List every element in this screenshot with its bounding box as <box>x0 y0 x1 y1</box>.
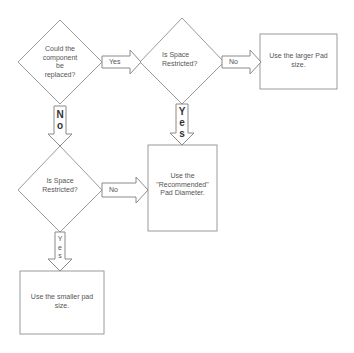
arrow-letter: s <box>55 252 65 261</box>
outcome-label-larger-pad: Use the larger Pad size. <box>262 52 335 69</box>
decision-label-line: component <box>30 54 90 63</box>
outcome-label-smaller-pad: Use the smaller pad size. <box>22 293 102 310</box>
decision-label-line: be <box>30 62 90 71</box>
arrow-label-no-middle: No <box>109 186 118 193</box>
decision-label-line: Is Space <box>162 51 210 60</box>
decision-label-line: Restricted? <box>30 186 90 195</box>
outcome-label-line: Use the <box>150 172 215 181</box>
arrow-no-to-larger-pad <box>222 50 261 74</box>
arrow-label-no-top-right: No <box>229 58 238 65</box>
arrow-letter: o <box>54 120 66 131</box>
outcome-label-line: Use the larger Pad <box>262 52 335 61</box>
arrow-label-yes-vertical-top: Y e s <box>176 106 188 139</box>
arrow-letter: Y <box>55 235 65 244</box>
outcome-label-line: Pad Diameter. <box>150 189 215 198</box>
arrow-letter: e <box>176 117 188 128</box>
arrow-letter: e <box>55 244 65 253</box>
decision-label-line: Restricted? <box>162 60 210 69</box>
decision-label-line: replaced? <box>30 71 90 80</box>
arrow-label-no-vertical: N o <box>54 109 66 131</box>
outcome-label-line: size. <box>262 61 335 70</box>
decision-label-space-restricted-bottom: Is Space Restricted? <box>30 177 90 194</box>
decision-label-component-replaced: Could the component be replaced? <box>30 45 90 79</box>
arrow-letter: s <box>176 128 188 139</box>
arrow-yes-to-space-check <box>102 50 141 74</box>
outcome-label-line: Use the smaller pad <box>22 293 102 302</box>
decision-label-space-restricted-top: Is Space Restricted? <box>162 51 210 68</box>
outcome-label-line: "Recommended" <box>150 181 215 190</box>
arrow-label-yes-top: Yes <box>109 58 120 65</box>
outcome-label-line: size. <box>22 302 102 311</box>
arrow-letter: Y <box>176 106 188 117</box>
decision-label-line: Is Space <box>30 177 90 186</box>
decision-label-line: Could the <box>30 45 90 54</box>
outcome-label-recommended-pad: Use the "Recommended" Pad Diameter. <box>150 172 215 198</box>
arrow-letter: N <box>54 109 66 120</box>
arrow-label-yes-vertical-bottom: Y e s <box>55 235 65 261</box>
